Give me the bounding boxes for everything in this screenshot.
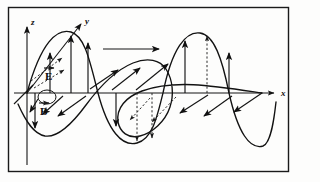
y-axis-label: y [84,16,90,26]
b-field-wave-curve [18,60,262,137]
b-field-label: B [40,105,48,117]
b-vector-arrow [204,96,232,116]
z-axis-label: z [30,17,35,27]
x-axis-label: x [280,88,286,98]
e-field-label-group: E [44,68,54,82]
em-wave-figure: z y x E B [0,0,298,182]
b-vector-arrow-dashed [130,98,150,120]
e-field-label: E [45,70,52,82]
y-axis [27,24,81,93]
axis-origin-stub [14,85,33,104]
b-vector-arrow [180,95,208,113]
origin-angle-ellipse [38,90,56,104]
b-vector-arrow [30,99,38,112]
e-field-vectors [35,36,229,141]
b-vector-arrow [58,96,86,116]
b-vector-arrow [234,93,262,112]
figure-canvas: z y x E B [0,0,298,182]
axis-group [14,24,274,165]
